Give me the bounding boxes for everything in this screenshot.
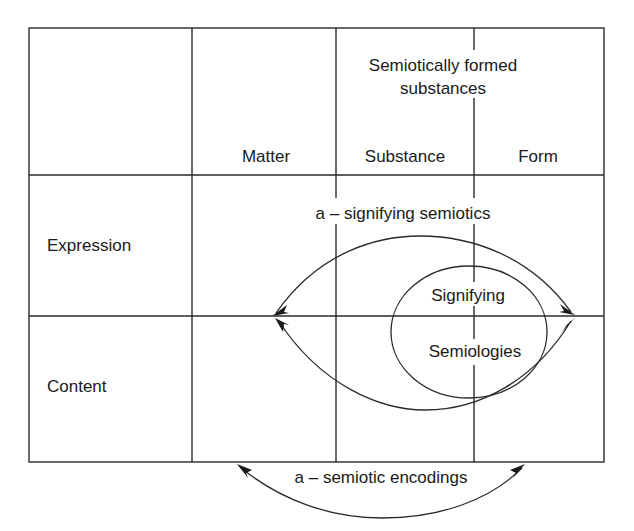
signifying-semiotics-label: a – signifying semiotics: [316, 204, 491, 223]
arrowhead-icon: [510, 464, 525, 478]
row-label-expression: Expression: [47, 236, 131, 255]
arrowhead-icon: [561, 318, 575, 333]
row-label-content: Content: [47, 377, 107, 396]
header-group-label-continued: substances: [400, 79, 486, 98]
column-header-matter: Matter: [242, 147, 291, 166]
arrowhead-icon: [237, 464, 252, 478]
arrowhead-icon: [275, 318, 289, 332]
ellipse-label-signifying: Signifying: [431, 286, 505, 305]
column-header-substance: Substance: [365, 147, 445, 166]
ellipse-label-semiologies: Semiologies: [429, 342, 522, 361]
semiotics-diagram: Semiotically formed substances Matter Su…: [0, 0, 634, 531]
header-group-label: Semiotically formed: [369, 56, 517, 75]
column-header-form: Form: [518, 147, 558, 166]
semiotic-encodings-label: a – semiotic encodings: [295, 468, 468, 487]
